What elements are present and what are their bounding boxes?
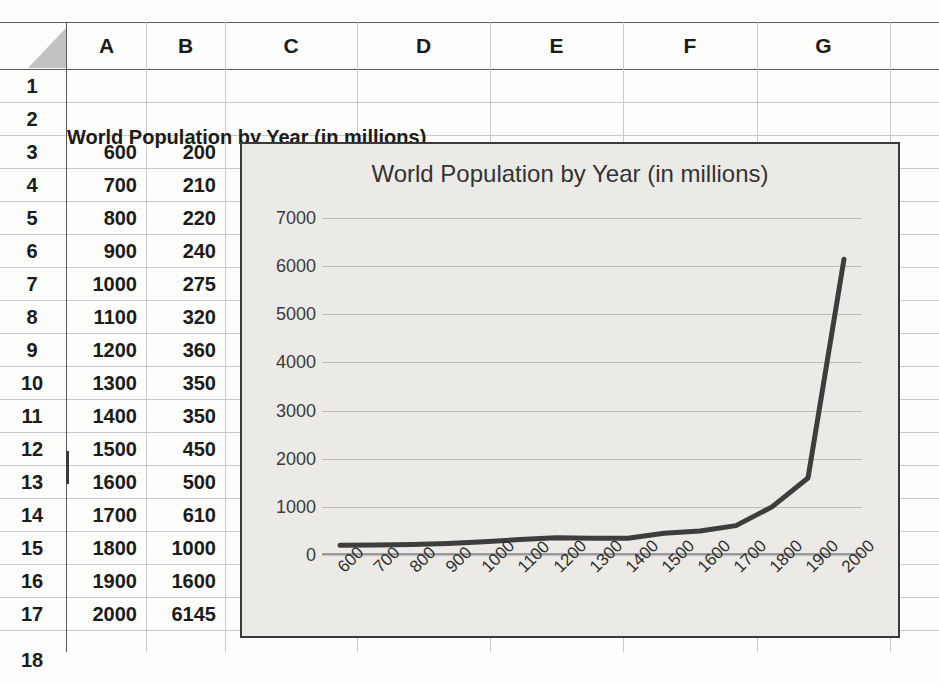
cell-b9[interactable]: 360 (146, 334, 225, 367)
row-header-18[interactable]: 18 (0, 649, 64, 669)
cell-a8[interactable]: 1100 (67, 301, 146, 334)
cell-b14[interactable]: 610 (146, 499, 225, 532)
cell-a13[interactable]: 1600 (67, 466, 146, 499)
cell-b16[interactable]: 1600 (146, 565, 225, 598)
cell-a15[interactable]: 1800 (67, 532, 146, 565)
cell-a5[interactable]: 800 (67, 202, 146, 235)
cell-b17[interactable]: 6145 (146, 598, 225, 631)
y-tick-label-1000: 1000 (256, 496, 316, 517)
chart-series-line (322, 218, 862, 555)
cell-b6[interactable]: 240 (146, 235, 225, 268)
row-header-8[interactable]: 8 (0, 301, 64, 334)
cell-a4[interactable]: 700 (67, 169, 146, 202)
cell-a14[interactable]: 1700 (67, 499, 146, 532)
row-header-12[interactable]: 12 (0, 433, 64, 466)
cell-a3[interactable]: 600 (67, 136, 146, 169)
cell-a10[interactable]: 1300 (67, 367, 146, 400)
y-tick-label-2000: 2000 (256, 448, 316, 469)
cell-b3[interactable]: 200 (146, 136, 225, 169)
column-header-e[interactable]: E (490, 22, 623, 70)
cell-a7[interactable]: 1000 (67, 268, 146, 301)
cell-a6[interactable]: 900 (67, 235, 146, 268)
row-header-14[interactable]: 14 (0, 499, 64, 532)
chart-title: World Population by Year (in millions) (242, 160, 898, 188)
row-header-15[interactable]: 15 (0, 532, 64, 565)
row-header-9[interactable]: 9 (0, 334, 64, 367)
cell-a17[interactable]: 2000 (67, 598, 146, 631)
row-header-17[interactable]: 17 (0, 598, 64, 631)
row-header-5[interactable]: 5 (0, 202, 64, 235)
column-header-b[interactable]: B (146, 22, 225, 70)
row-header-3[interactable]: 3 (0, 136, 64, 169)
row-header-16[interactable]: 16 (0, 565, 64, 598)
cell-b5[interactable]: 220 (146, 202, 225, 235)
cell-a11[interactable]: 1400 (67, 400, 146, 433)
column-header-f[interactable]: F (623, 22, 757, 70)
y-tick-label-5000: 5000 (256, 304, 316, 325)
embedded-line-chart[interactable]: World Population by Year (in millions) 0… (240, 142, 900, 638)
row-header-4[interactable]: 4 (0, 169, 64, 202)
cell-b7[interactable]: 275 (146, 268, 225, 301)
y-tick-label-7000: 7000 (256, 208, 316, 229)
row-divider (0, 102, 939, 103)
column-header-g[interactable]: G (757, 22, 890, 70)
column-header-c[interactable]: C (225, 22, 357, 70)
y-tick-label-6000: 6000 (256, 256, 316, 277)
chart-plot-area: 01000200030004000500060007000 (322, 218, 862, 555)
cell-a16[interactable]: 1900 (67, 565, 146, 598)
column-header-row[interactable]: A B C D E F G (0, 22, 939, 70)
cell-b10[interactable]: 350 (146, 367, 225, 400)
y-tick-label-0: 0 (256, 545, 316, 566)
cell-b15[interactable]: 1000 (146, 532, 225, 565)
cell-a12[interactable]: 1500 (67, 433, 146, 466)
cell-b11[interactable]: 350 (146, 400, 225, 433)
column-divider-b-c (225, 22, 226, 652)
row-header-2[interactable]: 2 (0, 103, 64, 136)
column-header-a[interactable]: A (67, 22, 146, 70)
cell-a9[interactable]: 1200 (67, 334, 146, 367)
cell-b8[interactable]: 320 (146, 301, 225, 334)
row-header-7[interactable]: 7 (0, 268, 64, 301)
row-header-10[interactable]: 10 (0, 367, 64, 400)
column-header-d[interactable]: D (357, 22, 490, 70)
y-tick-label-4000: 4000 (256, 352, 316, 373)
row-header-6[interactable]: 6 (0, 235, 64, 268)
row-header-11[interactable]: 11 (0, 400, 64, 433)
y-tick-label-3000: 3000 (256, 400, 316, 421)
select-all-corner[interactable] (28, 28, 66, 68)
row-header-13[interactable]: 13 (0, 466, 64, 499)
cell-b4[interactable]: 210 (146, 169, 225, 202)
cell-b13[interactable]: 500 (146, 466, 225, 499)
row-header-1[interactable]: 1 (0, 70, 64, 103)
cell-b12[interactable]: 450 (146, 433, 225, 466)
